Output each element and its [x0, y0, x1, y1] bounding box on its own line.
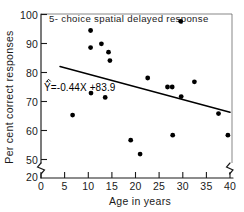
data-point: [145, 76, 150, 81]
data-point: [88, 45, 93, 50]
data-point: [103, 95, 108, 100]
x-tick-label-15: 15: [106, 180, 118, 192]
y-axis-title: Per cent correct responses: [3, 30, 15, 163]
y-tick-label-60: 60: [26, 125, 38, 137]
chart-canvas: 100 90 80 70 60 50 20 0 5 10 15 20 25: [0, 0, 244, 212]
x-tick-label-35: 35: [200, 180, 212, 192]
x-tick-label-25: 25: [153, 180, 165, 192]
scatter-plot-figure: 100 90 80 70 60 50 20 0 5 10 15 20 25: [0, 0, 244, 212]
data-point: [106, 50, 111, 55]
y-axis: [38, 14, 45, 178]
data-point: [170, 133, 175, 138]
x-tick-label-10: 10: [82, 180, 94, 192]
data-point: [170, 85, 175, 90]
y-tick-label-80: 80: [26, 67, 38, 79]
y-tick-label-20: 20: [26, 171, 38, 183]
x-tick-label-5: 5: [62, 180, 68, 192]
data-point: [179, 94, 184, 99]
y-tick-label-50: 50: [26, 154, 38, 166]
x-tick-label-40: 40: [224, 180, 236, 192]
y-tick-label-90: 90: [26, 38, 38, 50]
x-axis: [41, 163, 233, 178]
y-tick-labels: 100 90 80 70 60 50 20: [20, 9, 38, 184]
x-tick-label-20: 20: [129, 180, 141, 192]
data-point: [226, 133, 231, 138]
y-tick-label-70: 70: [26, 96, 38, 108]
regression-equation-text: Ŷ=-0.44X +83.9: [44, 81, 116, 93]
data-point: [108, 58, 113, 63]
y-tick-label-100: 100: [20, 9, 38, 21]
regression-equation-annotation: Ŷ=-0.44X +83.9: [44, 79, 116, 93]
data-point: [89, 91, 94, 96]
data-point: [178, 19, 183, 24]
data-point: [88, 28, 93, 33]
data-point: [128, 138, 133, 143]
x-axis-title: Age in years: [109, 195, 171, 207]
x-tick-labels: 0 5 10 15 20 25 30 35 40: [38, 180, 236, 192]
chart-title: 5- choice spatial delayed response: [49, 13, 209, 24]
x-tick-label-0: 0: [38, 180, 44, 192]
data-point: [70, 113, 75, 118]
data-point: [138, 152, 143, 157]
data-point: [192, 79, 197, 84]
x-tick-label-30: 30: [177, 180, 189, 192]
data-point: [99, 41, 104, 46]
x-tick-marks: [41, 172, 230, 178]
data-point: [165, 85, 170, 90]
data-point: [216, 111, 221, 116]
